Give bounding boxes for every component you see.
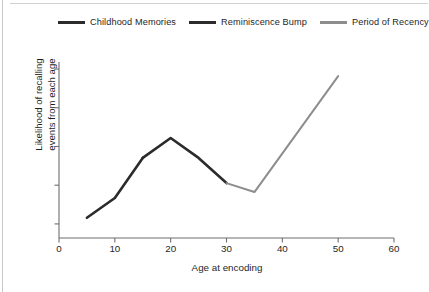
y-axis-title-line1: Likelihood of recalling (33, 20, 46, 190)
x-axis-tick-label-60: 60 (382, 243, 406, 254)
x-axis-tick-label-0: 0 (47, 243, 71, 254)
y-axis-title-line2: events from each age (45, 20, 58, 190)
chart-axes (55, 62, 395, 243)
series-line-childhood-memories (87, 158, 143, 218)
series-line-reminiscence-bump (143, 138, 227, 183)
x-axis-title: Age at encoding (59, 262, 395, 273)
x-axis-tick-label-40: 40 (270, 243, 294, 254)
x-axis-tick-label-50: 50 (326, 243, 350, 254)
chart-series-lines (87, 76, 338, 218)
x-axis-tick-label-30: 30 (215, 243, 239, 254)
series-line-period-of-recency (227, 76, 339, 192)
x-axis-tick-label-10: 10 (103, 243, 127, 254)
x-axis-tick-label-20: 20 (159, 243, 183, 254)
y-axis-title: Likelihood of recalling events from each… (33, 20, 58, 190)
